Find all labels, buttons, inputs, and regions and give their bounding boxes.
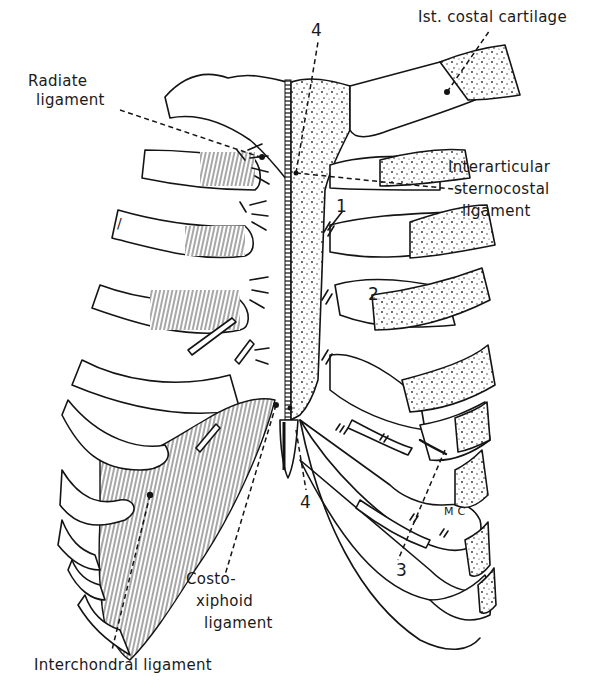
sternocostal-diagram: Ist. costal cartilage Radiate ligament I… [0,0,602,692]
label-radiate-line2: ligament [36,91,105,110]
number-4-bottom: 4 [300,492,311,512]
label-costoxiphoid-line1: Costo- [186,570,236,589]
left-side [58,74,287,660]
slit-3 [235,340,254,364]
label-interchondral: Interchondral ligament [34,656,212,675]
label-interarticular-line2: sternocostal [454,180,550,199]
label-interarticular-line3: ligament [462,202,531,221]
number-4-top: 4 [311,20,322,40]
label-costoxiphoid-line2: xiphoid [196,592,253,611]
rib-5-left [72,360,240,413]
number-2: 2 [368,284,379,304]
rib-6-left [62,400,168,470]
number-3: 3 [396,560,407,580]
rib-8-left [58,520,100,570]
costal-cartilage-4 [372,268,490,330]
label-costal-cartilage-1: Ist. costal cartilage [418,8,567,27]
label-radiate-line1: Radiate [28,72,87,91]
label-interarticular-line1: Interarticular [448,158,550,177]
costal-cartilage-7 [455,450,488,508]
costal-cartilage-5 [402,345,495,412]
label-mc: M C [444,502,466,521]
label-costoxiphoid-line3: ligament [204,614,273,633]
left-tick-mark: / [117,214,122,233]
sternum [280,79,350,478]
number-1: 1 [336,196,347,216]
